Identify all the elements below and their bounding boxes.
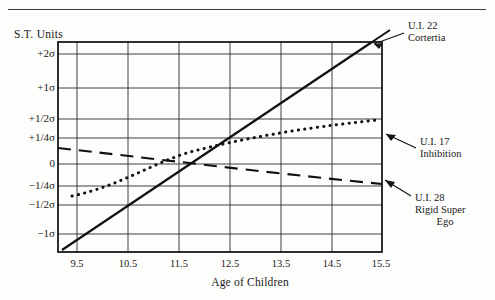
x-axis-title: Age of Children <box>160 276 340 288</box>
series-name2-u28: Ego <box>415 216 475 228</box>
series-annotation-u28: U.I. 28 Rigid Super Ego <box>415 192 475 228</box>
x-tick-label: 15.5 <box>372 258 390 269</box>
series-name-u28: Rigid Super <box>415 204 475 216</box>
series-code-u17: U.I. 17 <box>420 136 449 147</box>
series-annotation-u17: U.I. 17 Inhibition <box>420 136 461 160</box>
chart-figure: S.T. Units <box>0 0 495 300</box>
series-name-u17: Inhibition <box>420 148 461 160</box>
x-tick-label: 12.5 <box>221 258 239 269</box>
x-tick-label: 11.5 <box>170 258 188 269</box>
x-tick-label: 13.5 <box>272 258 290 269</box>
series-name-u22: Cortertia <box>408 32 445 44</box>
series-annotation-u22: U.I. 22 Cortertia <box>408 20 445 44</box>
x-tick-label: 9.5 <box>70 258 83 269</box>
series-code-u28: U.I. 28 <box>415 192 444 203</box>
x-tick-label: 10.5 <box>119 258 137 269</box>
x-tick-label: 14.5 <box>323 258 341 269</box>
series-code-u22: U.I. 22 <box>408 20 437 31</box>
